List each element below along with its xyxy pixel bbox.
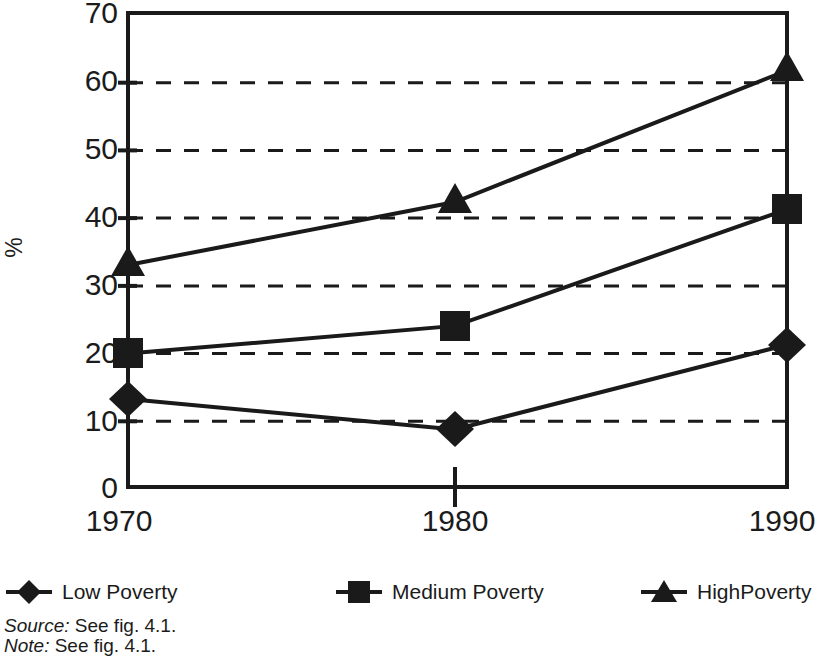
note-text: See fig. 4.1. bbox=[49, 635, 156, 656]
x-tick-label-1970: 1970 bbox=[39, 505, 199, 537]
note-label: Note: bbox=[4, 635, 49, 656]
y-tick-label: 20 bbox=[8, 338, 118, 368]
y-axis-title: % bbox=[3, 218, 26, 278]
legend-item-high-poverty[interactable]: HighPoverty bbox=[641, 572, 811, 612]
legend-label: Medium Poverty bbox=[382, 581, 544, 603]
data-point-marker bbox=[770, 51, 804, 81]
series-medium-poverty bbox=[113, 194, 802, 368]
legend-label: HighPoverty bbox=[687, 581, 811, 603]
triangle-marker-icon bbox=[641, 575, 687, 609]
y-tick-label: 0 bbox=[8, 473, 118, 503]
square-marker-icon bbox=[336, 575, 382, 609]
legend-label: Low Poverty bbox=[52, 581, 178, 603]
general-note: Note: See fig. 4.1. bbox=[4, 636, 504, 656]
y-tick-label: 50 bbox=[8, 134, 118, 164]
data-point-marker bbox=[436, 411, 474, 447]
source-label: Source: bbox=[4, 615, 69, 636]
series-highpoverty bbox=[111, 51, 804, 276]
x-tick-label-1990: 1990 bbox=[702, 505, 816, 537]
source-note: Source: See fig. 4.1. bbox=[4, 616, 504, 636]
data-point-marker bbox=[772, 194, 802, 224]
legend-item-low-poverty[interactable]: Low Poverty bbox=[6, 572, 178, 612]
y-tick-label: 60 bbox=[8, 66, 118, 96]
data-point-marker bbox=[440, 311, 470, 341]
y-tick-label: 70 bbox=[8, 0, 118, 28]
y-tick-label: 10 bbox=[8, 406, 118, 436]
figure-notes: Source: See fig. 4.1. Note: See fig. 4.1… bbox=[4, 616, 504, 656]
diamond-marker-icon bbox=[6, 575, 52, 609]
source-text: See fig. 4.1. bbox=[69, 615, 176, 636]
legend-item-medium-poverty[interactable]: Medium Poverty bbox=[336, 572, 544, 612]
data-point-marker bbox=[768, 327, 806, 363]
line-chart-plot bbox=[0, 0, 816, 560]
chart-legend: Low Poverty Medium Poverty HighPoverty bbox=[0, 572, 816, 612]
x-tick-label-1980: 1980 bbox=[375, 505, 535, 537]
